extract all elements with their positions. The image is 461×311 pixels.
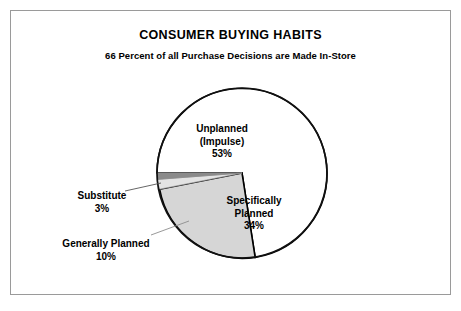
pie-label-unplanned-line2: (Impulse) <box>200 136 244 147</box>
pie-label-generally-planned-line1: Generally Planned <box>62 238 149 249</box>
pie-label-unplanned: Unplanned (Impulse) 53% <box>162 123 282 161</box>
pie-label-substitute-line1: Substitute <box>78 190 127 201</box>
pie-label-generally-planned: Generally Planned 10% <box>31 238 181 263</box>
pie-label-specifically-planned-line1: Specifically <box>226 195 281 206</box>
pie-label-substitute-value: 3% <box>95 203 109 214</box>
pie-label-specifically-planned-value: 34% <box>244 220 264 231</box>
pie-label-specifically-planned: Specifically Planned 34% <box>194 195 314 233</box>
pie-label-unplanned-value: 53% <box>212 148 232 159</box>
pie-label-generally-planned-value: 10% <box>96 251 116 262</box>
pie-label-substitute: Substitute 3% <box>47 190 157 215</box>
pie-label-specifically-planned-line2: Planned <box>235 208 274 219</box>
chart-card: CONSUMER BUYING HABITS 66 Percent of all… <box>10 10 451 295</box>
pie-label-unplanned-line1: Unplanned <box>196 123 248 134</box>
